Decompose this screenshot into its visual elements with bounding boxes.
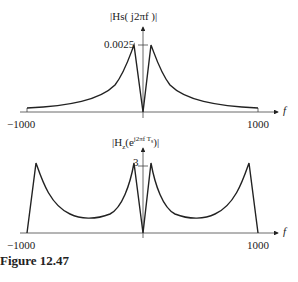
top-xaxis-label: f [283,104,286,116]
top-xtick-neg: −1000 [7,118,35,130]
bottom-xtick-neg: −1000 [7,239,35,251]
bottom-plot [20,148,278,238]
top-plot [20,27,278,118]
top-plot-title: |Hs( j2πf )| [110,10,157,22]
bottom-ytick-label: 3 [133,156,139,168]
bottom-xtick-pos: 1000 [247,239,269,251]
top-ytick-label: 0.0025 [104,38,134,50]
figure-label: Figure 12.47 [0,253,69,269]
figure-caption [0,272,298,282]
bottom-plot-title: |Hz(ej2πf Ts)| [112,135,159,151]
top-xtick-pos: 1000 [247,118,269,130]
bottom-xaxis-label: f [283,225,286,237]
